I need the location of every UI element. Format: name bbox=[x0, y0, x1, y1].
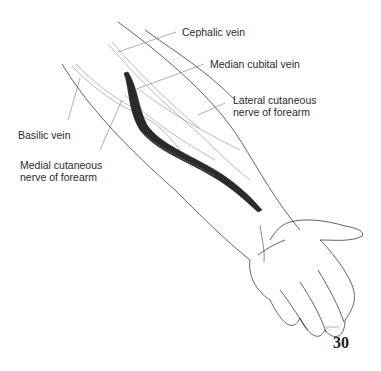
label-lateral-cutaneous-nerve-line2: nerve of forearm bbox=[233, 106, 310, 118]
label-median-cubital-vein: Median cubital vein bbox=[210, 58, 300, 70]
leader-basilic bbox=[68, 78, 80, 120]
page-number: 30 bbox=[333, 334, 349, 352]
label-medial-cutaneous-nerve-line1: Medial cutaneous bbox=[20, 159, 102, 171]
hand-contour bbox=[250, 220, 363, 337]
leader-medial-cutaneous bbox=[100, 100, 122, 150]
label-lateral-cutaneous-nerve-line1: Lateral cutaneous bbox=[233, 94, 316, 106]
leader-lateral-cutaneous bbox=[198, 103, 225, 115]
label-medial-cutaneous-nerve-line2: nerve of forearm bbox=[20, 171, 97, 183]
leader-cephalic bbox=[118, 32, 176, 52]
label-basilic-vein: Basilic vein bbox=[18, 129, 71, 141]
forearm-illustration bbox=[0, 0, 381, 371]
label-cephalic-vein: Cephalic vein bbox=[182, 26, 245, 38]
artist-signature: signature bbox=[323, 324, 339, 329]
